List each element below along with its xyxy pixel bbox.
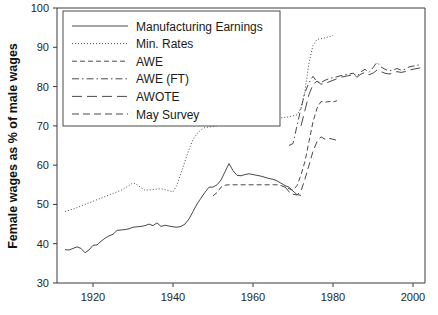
x-tick-label: 1960 bbox=[241, 291, 265, 303]
legend-item-label: AWE bbox=[136, 55, 163, 69]
chart-container: 30405060708090100 19201940196019802000 F… bbox=[0, 0, 438, 315]
x-tick-label: 1920 bbox=[81, 291, 105, 303]
y-tick-label: 90 bbox=[37, 41, 49, 53]
legend-item-label: May Survey bbox=[136, 108, 199, 122]
x-tick-label: 1980 bbox=[321, 291, 345, 303]
y-tick-label: 100 bbox=[31, 2, 49, 14]
series-line bbox=[65, 164, 301, 253]
x-axis-ticks: 19201940196019802000 bbox=[81, 283, 425, 303]
x-tick-label: 1940 bbox=[161, 291, 185, 303]
y-tick-label: 40 bbox=[37, 238, 49, 250]
wage-ratio-line-chart: 30405060708090100 19201940196019802000 F… bbox=[0, 0, 438, 315]
y-tick-label: 70 bbox=[37, 120, 49, 132]
legend-item-label: Min. Rates bbox=[136, 37, 193, 51]
legend-item-label: AWE (FT) bbox=[136, 72, 189, 86]
legend-item-label: Manufacturing Earnings bbox=[136, 20, 263, 34]
y-tick-label: 30 bbox=[37, 277, 49, 289]
y-axis-title: Female wages as % of male wages bbox=[6, 43, 20, 249]
y-tick-label: 50 bbox=[37, 198, 49, 210]
x-tick-label: 2000 bbox=[401, 291, 425, 303]
legend-item-label: AWOTE bbox=[136, 90, 180, 104]
y-tick-label: 80 bbox=[37, 81, 49, 93]
y-tick-label: 60 bbox=[37, 159, 49, 171]
series-line bbox=[301, 68, 421, 126]
series-line bbox=[285, 137, 337, 195]
series-line bbox=[289, 62, 421, 145]
chart-legend: Manufacturing EarningsMin. RatesAWEAWE (… bbox=[63, 11, 280, 126]
y-axis-ticks: 30405060708090100 bbox=[31, 2, 57, 289]
